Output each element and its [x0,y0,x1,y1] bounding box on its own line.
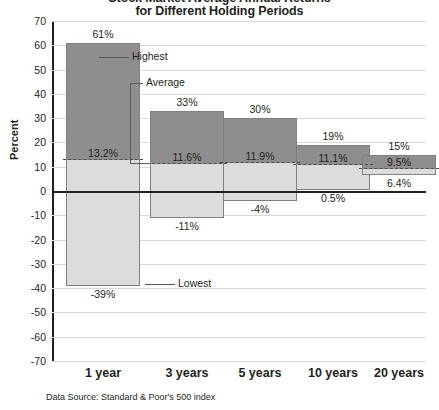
average-value-label: 11.1% [296,153,370,164]
highest-value-label: 30% [223,104,297,115]
highest-value-label: 19% [296,131,370,142]
chart-title-line2: for Different Holding Periods [0,4,439,18]
y-tick-label: 40 [34,89,46,99]
annotation-lowest: Lowest [178,278,211,289]
average-value-label: 11.6% [150,152,224,163]
y-tick-label: 20 [34,137,46,147]
y-tick-label: -50 [31,307,46,317]
chart-container: Stock Market Average Annual Returns for … [0,0,439,410]
y-axis-title: Percent [8,120,20,160]
data-source-note: Data Source: Standard & Poor's 500 index [46,392,215,402]
x-tick-label-3-years: 3 years [150,366,224,380]
leader-line-lowest [145,284,175,285]
highest-value-label: 15% [362,141,436,152]
y-tick-label: 60 [34,40,46,50]
annotation-average: Average [146,77,185,88]
y-tick-label: 10 [34,162,46,172]
average-marker-line [293,164,373,165]
leader-line-average-vertical [130,83,131,163]
lowest-value-label: -4% [223,204,297,215]
average-value-label: 9.5% [362,157,436,168]
gridline: 70 [52,21,426,22]
x-tick-label-1-year: 1 year [66,366,140,380]
y-tick-label: 30 [34,113,46,123]
plot-area: 706050403020100-10-20-30-40-50-60-70 61%… [52,21,426,361]
y-tick-label: -30 [31,259,46,269]
highest-value-label: 33% [150,97,224,108]
x-tick-label-20-years: 20 years [362,366,436,380]
lowest-value-label: -11% [150,221,224,232]
bar-1-year [66,43,140,286]
average-marker-line [220,162,300,163]
lowest-value-label: 6.4% [362,178,436,189]
y-tick-label: 50 [34,65,46,75]
lowest-value-label: 0.5% [296,193,370,204]
y-tick-label: 0 [40,186,46,196]
average-marker-line [359,168,439,169]
y-tick-label: -10 [31,210,46,220]
y-tick-label: -20 [31,235,46,245]
leader-line-average-stub [130,83,143,84]
gridline: -50 [52,312,426,313]
annotation-highest: Highest [132,51,168,62]
gridline: -70 [52,361,426,362]
gridline: -60 [52,337,426,338]
x-tick-label-5-years: 5 years [223,366,297,380]
highest-value-label: 61% [66,29,140,40]
y-tick-label: -60 [31,332,46,342]
average-marker-line [147,163,227,164]
average-value-label: 11.9% [223,151,297,162]
leader-line-average-foot [130,163,150,164]
y-tick-label: 70 [34,16,46,26]
leader-line-highest [99,57,129,58]
y-tick-label: -70 [31,356,46,366]
average-value-label: 13.2% [66,148,140,159]
y-tick-label: -40 [31,283,46,293]
bar-3-years [150,111,224,218]
bar-upper-segment [67,44,139,160]
lowest-value-label: -39% [66,289,140,300]
x-tick-label-10-years: 10 years [296,366,370,380]
